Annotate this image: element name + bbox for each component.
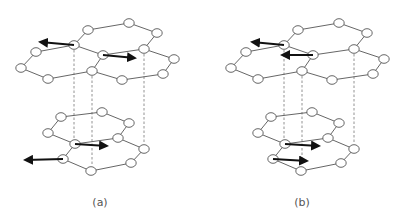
atom-node: [158, 70, 168, 79]
atom-node: [87, 67, 97, 76]
panel-label-b: (b): [294, 196, 310, 209]
atom-node: [266, 113, 276, 122]
bilayer-graphene-diagram: [0, 0, 401, 216]
atom-node: [293, 26, 303, 35]
bond: [246, 45, 284, 52]
atom-node: [117, 76, 127, 85]
atom-node: [334, 119, 344, 128]
top-layer: [16, 19, 179, 85]
atom-node: [113, 134, 123, 143]
bond: [36, 45, 74, 52]
bond: [285, 138, 328, 144]
bottom-layer: [43, 108, 149, 176]
atom-node: [253, 129, 263, 138]
bond: [258, 71, 302, 79]
bond: [88, 23, 129, 30]
atom-node: [323, 134, 333, 143]
atom-node: [241, 48, 251, 57]
bond: [301, 163, 341, 171]
atom-node: [296, 167, 306, 176]
atom-node: [126, 159, 136, 168]
atom-node: [152, 29, 162, 38]
atom-node: [31, 48, 41, 57]
atom-node: [336, 159, 346, 168]
panel-a: [16, 19, 179, 176]
atom-node: [56, 113, 66, 122]
atom-node: [16, 64, 26, 73]
atom-node: [139, 145, 149, 154]
bond: [48, 71, 92, 79]
atom-node: [297, 67, 307, 76]
bond: [332, 74, 373, 80]
atom-node: [43, 129, 53, 138]
atom-node: [362, 29, 372, 38]
atom-node: [226, 64, 236, 73]
atom-node: [97, 108, 107, 117]
atom-node: [86, 167, 96, 176]
atom-node: [139, 45, 149, 54]
panel-label-a: (a): [92, 196, 107, 209]
atom-node: [83, 26, 93, 35]
bond: [122, 74, 163, 80]
bond: [91, 163, 131, 171]
atom-node: [124, 119, 134, 128]
atom-node: [307, 108, 317, 117]
atom-node: [124, 19, 134, 28]
bottom-layer: [253, 108, 359, 176]
atom-node: [349, 45, 359, 54]
atom-node: [253, 75, 263, 84]
atom-node: [379, 55, 389, 64]
bond: [75, 138, 118, 144]
atom-node: [327, 76, 337, 85]
displacement-arrow-icon: [25, 159, 63, 160]
panel-b: [226, 19, 389, 176]
atom-node: [368, 70, 378, 79]
bond: [271, 112, 312, 117]
top-layer: [226, 19, 389, 85]
bond: [103, 49, 144, 55]
atom-node: [349, 145, 359, 154]
atom-node: [334, 19, 344, 28]
atom-node: [43, 75, 53, 84]
bond: [298, 23, 339, 30]
bond: [61, 112, 102, 117]
bond: [313, 49, 354, 55]
atom-node: [169, 55, 179, 64]
